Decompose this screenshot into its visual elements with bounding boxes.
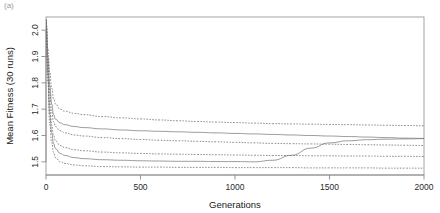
line-chart: 0500100015002000 1.51.61.71.81.92.0 Gene… — [0, 0, 440, 213]
series-line-2 — [46, 20, 424, 139]
x-tick-label: 1500 — [320, 182, 339, 192]
y-tick-label: 1.6 — [30, 129, 40, 141]
y-axis-title: Mean Fitness (30 runs) — [4, 47, 15, 145]
plot-frame — [46, 17, 424, 175]
x-tick-label: 1000 — [226, 182, 245, 192]
series-line-4 — [46, 20, 424, 157]
x-axis-title: Generations — [209, 199, 261, 210]
y-tick-label: 2.0 — [30, 24, 40, 36]
y-tick-label: 1.5 — [30, 156, 40, 168]
figure-panel: (a) 0500100015002000 1.51.61.71.81.92.0 … — [0, 0, 440, 213]
y-tick-label: 1.9 — [30, 50, 40, 62]
x-tick-label: 500 — [133, 182, 147, 192]
series-line-5 — [46, 20, 424, 162]
series-line-1 — [46, 20, 424, 126]
y-tick-label: 1.8 — [30, 77, 40, 89]
x-tick-label: 2000 — [415, 182, 434, 192]
y-axis-ticks: 1.51.61.71.81.92.0 — [30, 24, 46, 168]
x-tick-label: 0 — [44, 182, 49, 192]
chart-series-group — [46, 20, 424, 169]
series-line-6 — [46, 20, 424, 169]
series-line-3 — [46, 20, 424, 146]
y-tick-label: 1.7 — [30, 103, 40, 115]
x-axis-ticks: 0500100015002000 — [44, 175, 434, 192]
